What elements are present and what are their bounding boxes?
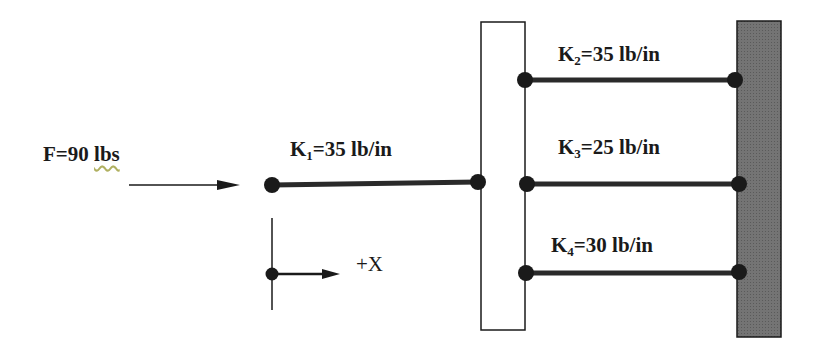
spring-system-diagram: [0, 0, 819, 359]
spring-k2-label: K2=35 lb/in: [558, 44, 660, 67]
spring-k4: [518, 264, 747, 281]
axis-indicator: [266, 218, 341, 310]
force-arrow: [129, 180, 240, 190]
spring-k2: [517, 72, 743, 88]
force-unit: lbs: [94, 142, 120, 166]
axis-label: +X: [356, 254, 383, 275]
rigid-block: [481, 22, 525, 330]
spring-k1: [264, 174, 486, 193]
spring-k3: [519, 176, 747, 192]
spring-k1-label: K1=35 lb/in: [290, 139, 392, 162]
spring-k3-label: K3=25 lb/in: [558, 137, 660, 160]
force-label: F=90 lbs: [43, 144, 120, 165]
spring-k4-label: K4=30 lb/in: [551, 235, 653, 258]
